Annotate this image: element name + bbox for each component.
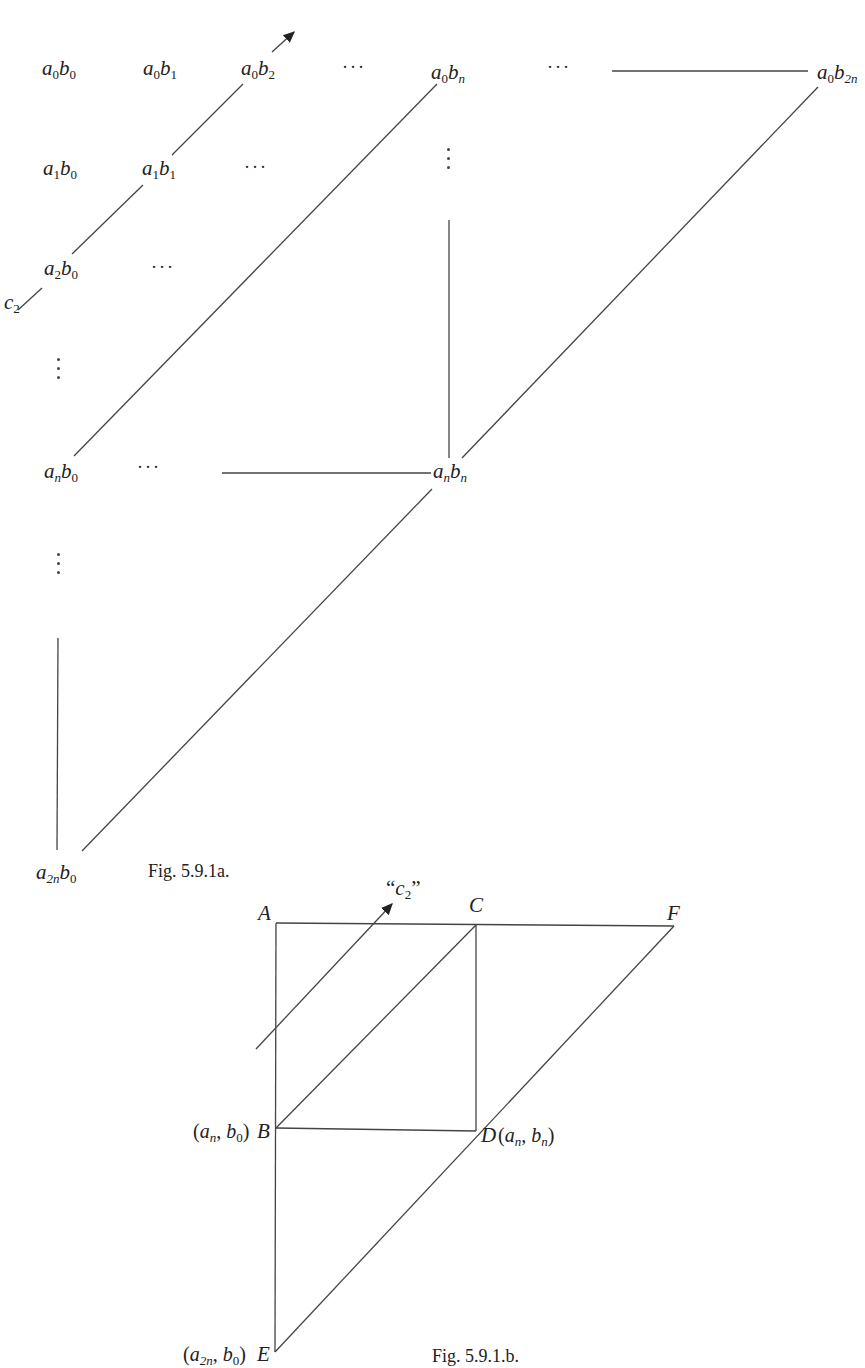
point-B: B — [257, 1121, 270, 1142]
c2-diagonal-seg-3 — [172, 84, 243, 155]
term-a1b1: a1b1 — [142, 158, 176, 181]
line-BC — [276, 925, 476, 1128]
term-anb0: anb0 — [44, 461, 78, 484]
figure-a-lines — [0, 0, 865, 1368]
vertical-ellipsis — [57, 553, 61, 580]
coord-B: (an, b0) — [193, 1121, 249, 1144]
point-E: E — [257, 1344, 270, 1365]
term-a0b2n: a0b2n — [817, 62, 858, 85]
ellipsis: ··· — [137, 458, 161, 476]
point-F: F — [667, 903, 680, 924]
point-C: C — [469, 895, 483, 916]
vertical-ellipsis — [57, 358, 61, 385]
b0-column-line — [57, 638, 58, 850]
vertical-ellipsis — [447, 148, 451, 175]
term-a0b2: a0b2 — [241, 58, 275, 81]
c2-label: c2 — [4, 292, 20, 315]
coord-E: (a2n, b0) — [183, 1344, 246, 1367]
term-anbn: anbn — [433, 461, 467, 484]
term-a0b1: a0b1 — [143, 58, 177, 81]
line-EF — [275, 926, 674, 1352]
term-a2nb0: a2nb0 — [36, 862, 77, 885]
term-a2b0: a2b0 — [44, 258, 78, 281]
caption-fig-b: Fig. 5.9.1.b. — [432, 1346, 519, 1367]
c2-diagonal-arrow — [272, 32, 294, 52]
line-BD — [276, 1128, 476, 1131]
term-a0bn: a0bn — [431, 62, 465, 85]
caption-fig-a: Fig. 5.9.1a. — [148, 861, 230, 882]
diagonal-anbn-a2nb0 — [82, 489, 432, 851]
c2-diagonal-seg-1 — [18, 288, 42, 310]
term-a1b0: a1b0 — [43, 158, 77, 181]
point-D: D — [481, 1125, 496, 1146]
ellipsis: ··· — [342, 58, 366, 76]
line-AE — [275, 923, 276, 1352]
diagonal-a0b2n-anbn — [462, 87, 818, 458]
diagonal-a0bn-anb0 — [74, 84, 437, 456]
ellipsis: ··· — [244, 158, 268, 176]
term-a0b0: a0b0 — [42, 58, 76, 81]
point-A: A — [258, 903, 271, 924]
c2-quoted-label: “c2” — [386, 878, 420, 901]
c2-diagonal-seg-2 — [72, 185, 143, 254]
coord-D: (an, bn) — [498, 1125, 554, 1148]
ellipsis: ··· — [547, 58, 571, 76]
ellipsis: ··· — [151, 258, 175, 276]
